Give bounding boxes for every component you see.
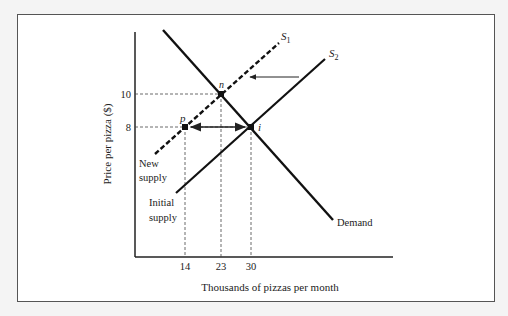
initial-supply-label: Initial bbox=[149, 197, 174, 208]
x-axis-title: Thousands of pizzas per month bbox=[201, 281, 339, 293]
y-tick-10: 10 bbox=[121, 89, 132, 100]
s2-label: S2 bbox=[329, 47, 339, 62]
x-tick-30: 30 bbox=[246, 261, 257, 272]
x-tick-23: 23 bbox=[216, 261, 227, 272]
point-n-label: n bbox=[219, 79, 224, 90]
y-axis-title: Price per pizza ($) bbox=[101, 103, 114, 184]
new-supply-label-2: supply bbox=[139, 172, 168, 183]
y-tick-8: 8 bbox=[126, 122, 131, 133]
point-i-label: i bbox=[258, 121, 261, 133]
point-p-label: p bbox=[179, 112, 186, 124]
initial-supply-label-2: supply bbox=[149, 212, 178, 223]
supply-demand-diagram: S1 S2 n p i New supply Initial supply De… bbox=[0, 0, 508, 316]
point-n bbox=[218, 91, 224, 97]
point-p bbox=[182, 124, 188, 130]
s1-label: S1 bbox=[281, 30, 291, 45]
demand-label: Demand bbox=[337, 217, 373, 228]
new-supply-label: New bbox=[139, 158, 159, 169]
x-tick-14: 14 bbox=[180, 261, 191, 272]
point-i bbox=[248, 124, 254, 130]
